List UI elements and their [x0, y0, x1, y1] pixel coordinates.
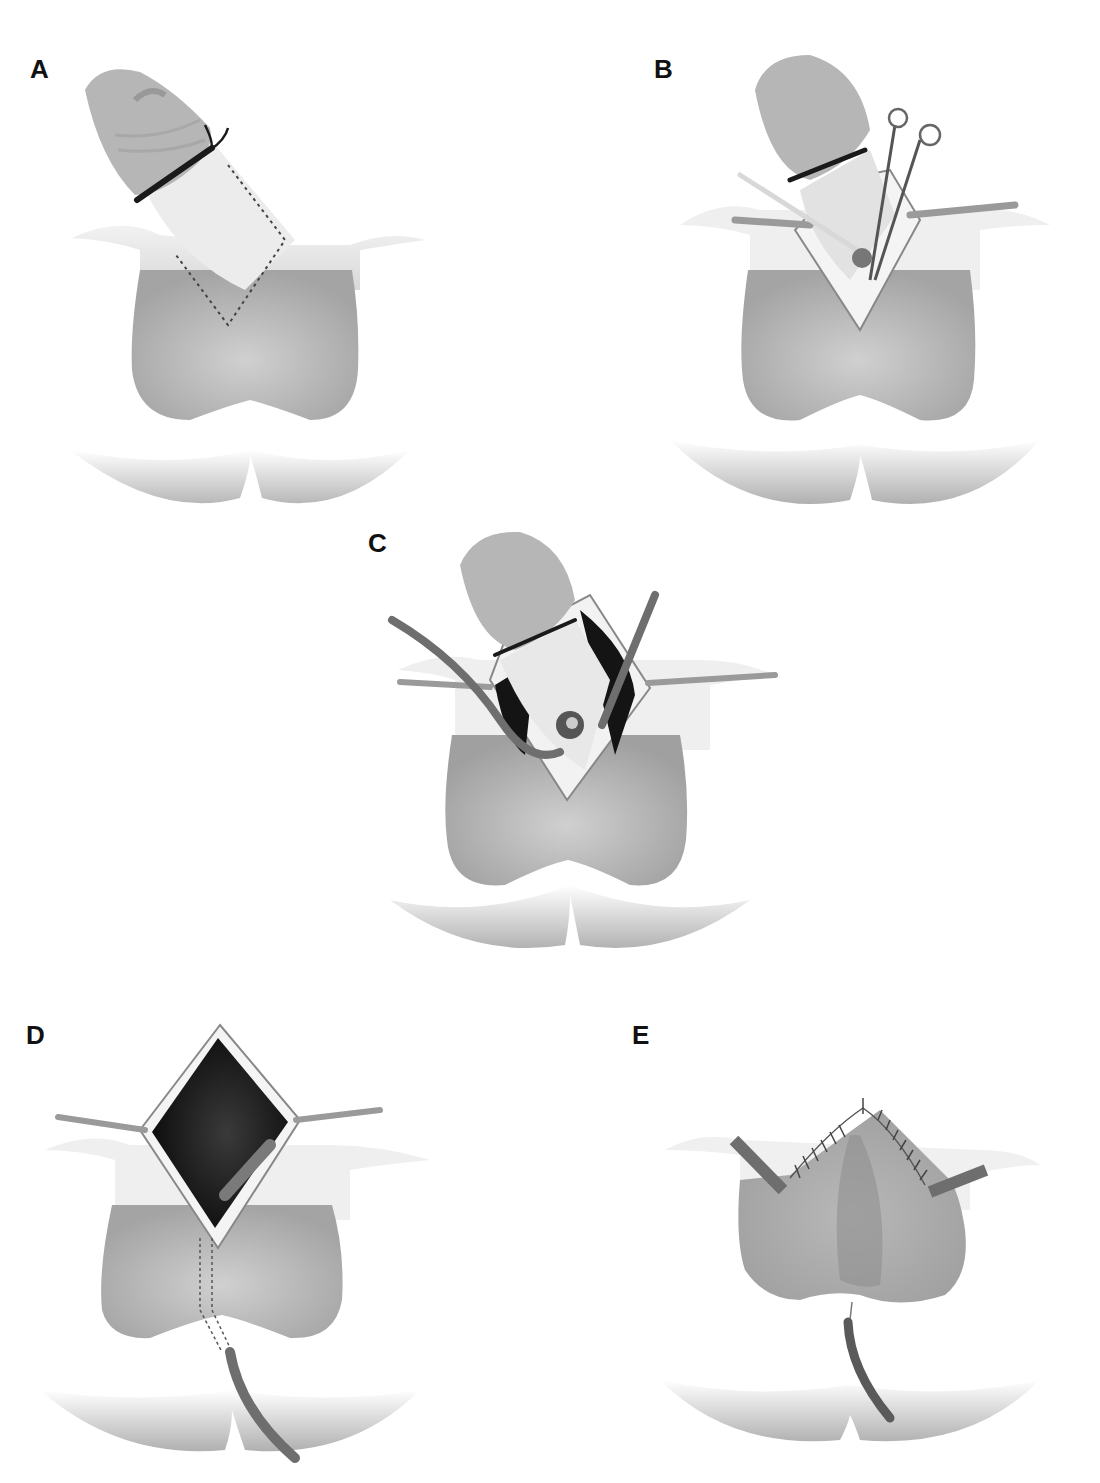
- panel-e-illustration: [550, 980, 1100, 1483]
- retractor-left: [735, 220, 810, 225]
- buttocks: [670, 440, 1040, 504]
- scrotum: [132, 270, 359, 420]
- buttocks: [70, 450, 410, 503]
- buttocks: [660, 1380, 1040, 1441]
- panel-e: E: [550, 980, 1100, 1483]
- panel-d-illustration: [0, 980, 550, 1483]
- drain-perineal: [850, 1302, 852, 1320]
- retractor-right: [296, 1110, 380, 1120]
- panel-d: D: [0, 980, 550, 1483]
- panel-b: B: [550, 0, 1100, 520]
- panel-c-illustration: [330, 520, 810, 980]
- panel-c: C: [330, 520, 810, 980]
- buttocks: [390, 885, 750, 948]
- panel-a: A: [0, 0, 550, 520]
- retractor-left: [58, 1117, 145, 1130]
- buttocks: [40, 1390, 420, 1451]
- panel-b-illustration: [550, 0, 1100, 520]
- panel-a-illustration: [0, 0, 550, 520]
